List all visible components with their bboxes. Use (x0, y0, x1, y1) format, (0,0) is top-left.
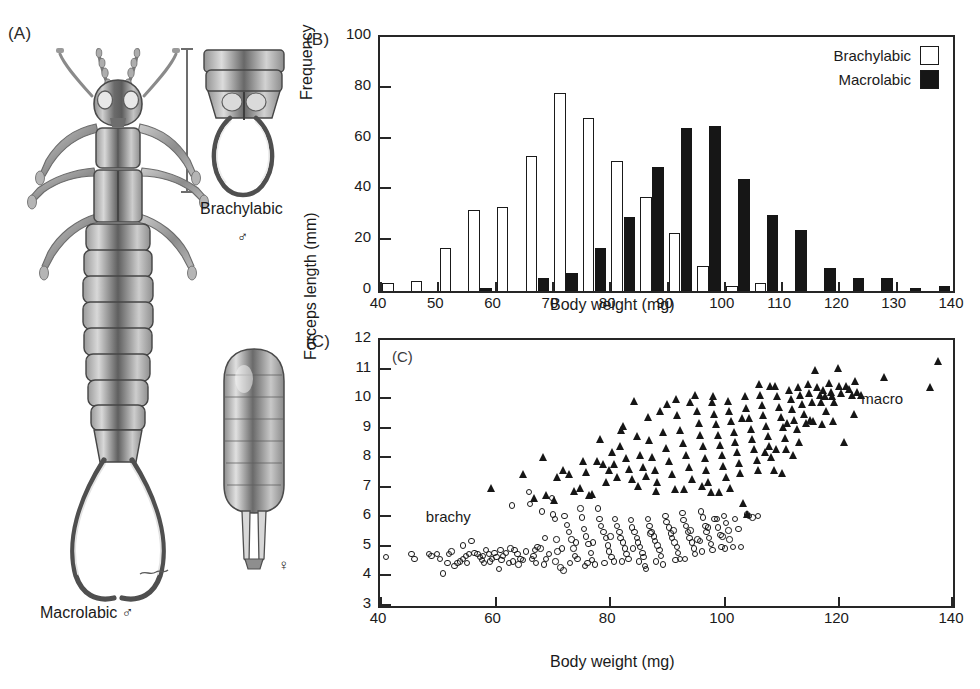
scatter-marker-brachy (515, 561, 521, 567)
scatter-marker-brachy (730, 544, 736, 550)
scatter-marker-macro (487, 484, 495, 492)
scatter-marker-brachy (719, 533, 725, 539)
panel-c-scatter: (C) Forceps length (mm) (C) macro brachy… (300, 320, 980, 689)
scatter-marker-macro (633, 432, 641, 440)
scatter-y-tick-label: 10 (354, 387, 371, 404)
scatter-marker-macro (790, 416, 798, 424)
scatter-marker-brachy (460, 542, 466, 548)
female-abdomen-illustration (218, 345, 290, 580)
scatter-marker-macro (668, 470, 676, 478)
scatter-marker-brachy (537, 545, 543, 551)
scatter-marker-macro (702, 466, 710, 474)
scatter-marker-brachy (628, 517, 634, 523)
scatter-marker-macro (758, 401, 766, 409)
histogram-x-tick-label: 50 (427, 294, 444, 311)
scatter-marker-macro (830, 398, 838, 406)
scatter-annotation-brachy: brachy (426, 508, 471, 525)
scatter-marker-macro (851, 377, 859, 385)
scatter-marker-macro (602, 478, 610, 486)
histogram-bar (595, 248, 606, 291)
scatter-marker-macro (837, 389, 845, 397)
scatter-marker-macro (772, 445, 780, 453)
histogram-bar (480, 288, 491, 291)
scatter-marker-macro (519, 470, 527, 478)
figure-root: (A) (0, 0, 980, 689)
scatter-marker-macro (818, 420, 826, 428)
scatter-marker-brachy (574, 556, 580, 562)
scatter-marker-brachy (579, 514, 585, 520)
scatter-marker-macro (750, 445, 758, 453)
scatter-marker-macro (805, 389, 813, 397)
scatter-marker-brachy (726, 536, 732, 542)
scatter-marker-brachy (552, 516, 558, 522)
scatter-marker-macro (652, 487, 660, 495)
scatter-marker-brachy (670, 527, 676, 533)
histogram-x-tick-label: 100 (709, 294, 734, 311)
scatter-marker-macro (688, 475, 696, 483)
legend-row-macrolabic: Macrolabic (833, 67, 939, 91)
scatter-y-axis-title: Forceps length (mm) (302, 212, 320, 360)
scatter-marker-brachy (653, 558, 659, 564)
scatter-x-tick (724, 597, 726, 606)
scatter-x-tick (495, 597, 497, 606)
scatter-marker-macro (727, 417, 735, 425)
scatter-marker-brachy (592, 561, 598, 567)
scatter-marker-brachy (553, 536, 559, 542)
scatter-y-tick (380, 456, 391, 458)
histogram-bar (640, 197, 651, 291)
scatter-marker-macro (787, 395, 795, 403)
scatter-marker-macro (748, 435, 756, 443)
brachylabic-male-label: Brachylabic (200, 200, 283, 218)
scatter-marker-macro (665, 457, 673, 465)
scatter-marker-macro (630, 397, 638, 405)
scatter-marker-brachy (699, 548, 705, 554)
panel-a-illustration: (A) (0, 0, 300, 660)
scatter-marker-macro (761, 448, 769, 456)
scatter-x-tick-label: 80 (599, 609, 616, 626)
histogram-y-tick (380, 238, 391, 240)
scatter-marker-brachy (539, 508, 545, 514)
scatter-marker-brachy (755, 513, 761, 519)
scatter-y-tick (380, 515, 391, 517)
scatter-marker-macro (736, 469, 744, 477)
scatter-marker-brachy (533, 560, 539, 566)
scatter-y-tick (380, 368, 391, 370)
legend-label-macrolabic: Macrolabic (838, 71, 911, 88)
scatter-marker-macro (766, 382, 774, 390)
histogram-bar (611, 161, 622, 291)
scatter-marker-brachy (577, 505, 583, 511)
histogram-y-tick-label: 80 (354, 76, 371, 93)
histogram-x-tick-label: 40 (370, 294, 387, 311)
scatter-marker-macro (850, 410, 858, 418)
scatter-marker-macro (707, 488, 715, 496)
scatter-marker-brachy (468, 538, 474, 544)
scatter-x-tick (838, 597, 840, 606)
scatter-marker-brachy (573, 539, 579, 545)
scatter-marker-brachy (714, 516, 720, 522)
scatter-marker-macro (785, 386, 793, 394)
scatter-marker-macro (764, 432, 772, 440)
scatter-marker-macro (696, 431, 704, 439)
histogram-y-tick (380, 187, 391, 189)
scatter-marker-macro (576, 484, 584, 492)
scatter-marker-macro (663, 400, 671, 408)
scatter-y-tick-label: 4 (363, 564, 371, 581)
scatter-marker-macro (735, 459, 743, 467)
scatter-marker-macro (804, 380, 812, 388)
scatter-marker-macro (698, 482, 706, 490)
scatter-marker-macro (789, 451, 797, 459)
scatter-marker-macro (659, 428, 667, 436)
scatter-marker-brachy (509, 502, 515, 508)
scatter-marker-brachy (612, 516, 618, 522)
scatter-marker-macro (722, 473, 730, 481)
scatter-annotation-macro: macro (861, 390, 903, 407)
histogram-bar (468, 210, 479, 291)
scatter-marker-macro (745, 414, 753, 422)
scatter-marker-macro (679, 439, 687, 447)
scatter-marker-brachy (542, 535, 548, 541)
scatter-marker-macro (829, 417, 837, 425)
scatter-marker-macro (716, 441, 724, 449)
scatter-marker-brachy (697, 538, 703, 544)
scatter-marker-macro (712, 420, 720, 428)
histogram-bar (881, 278, 892, 291)
